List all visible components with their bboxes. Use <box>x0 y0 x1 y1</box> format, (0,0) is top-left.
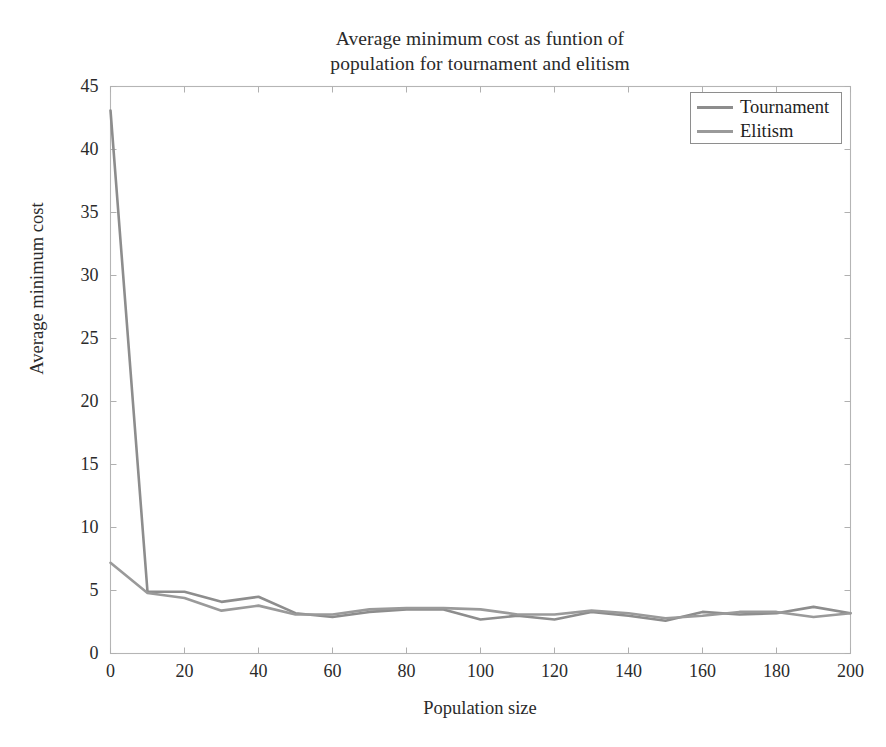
axis-ticks <box>111 87 851 654</box>
x-tick-label: 120 <box>525 661 585 682</box>
y-tick-label: 30 <box>53 265 99 286</box>
legend-label: Tournament <box>740 97 829 117</box>
y-tick-label: 35 <box>53 202 99 223</box>
legend-label: Elitism <box>740 121 793 141</box>
series-line-tournament <box>111 110 851 620</box>
x-tick-label: 140 <box>599 661 659 682</box>
x-tick-label: 40 <box>229 661 289 682</box>
y-tick-label: 10 <box>53 517 99 538</box>
data-series-lines <box>111 110 851 620</box>
x-tick-label: 80 <box>377 661 437 682</box>
legend-entry-tournament: Tournament <box>697 95 829 119</box>
y-tick-label: 40 <box>53 139 99 160</box>
y-tick-label: 25 <box>53 328 99 349</box>
x-tick-label: 160 <box>673 661 733 682</box>
x-tick-label: 100 <box>451 661 511 682</box>
y-tick-label: 15 <box>53 454 99 475</box>
legend: TournamentElitism <box>690 92 842 144</box>
x-axis-label: Population size <box>110 698 850 719</box>
x-tick-label: 200 <box>821 661 881 682</box>
plot-frame <box>111 87 851 654</box>
y-tick-label: 5 <box>53 580 99 601</box>
x-tick-label: 60 <box>303 661 363 682</box>
legend-line-swatch <box>697 130 733 133</box>
series-line-elitism <box>111 563 851 618</box>
x-tick-label: 20 <box>155 661 215 682</box>
legend-line-swatch <box>697 106 733 109</box>
y-tick-label: 45 <box>53 76 99 97</box>
legend-entry-elitism: Elitism <box>697 119 793 143</box>
y-axis-label: Average minimum cost <box>27 189 48 389</box>
x-tick-label: 180 <box>747 661 807 682</box>
y-tick-label: 20 <box>53 391 99 412</box>
x-tick-label: 0 <box>81 661 141 682</box>
chart-figure: Average minimum cost as funtion of popul… <box>0 0 886 747</box>
